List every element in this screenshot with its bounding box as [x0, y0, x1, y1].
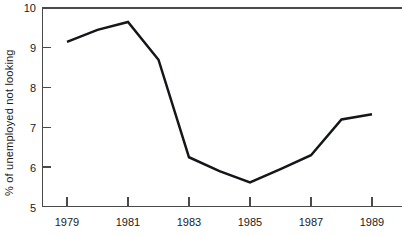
- x-tick-label-1979: 1979: [55, 216, 79, 228]
- y-tick-label-7: 7: [30, 122, 36, 134]
- y-tick-label-9: 9: [30, 42, 36, 54]
- x-tick-label-1989: 1989: [360, 216, 384, 228]
- data-line-unemployed-not-looking: [67, 22, 372, 182]
- x-axis-ticks: [67, 197, 372, 206]
- y-tick-label-5: 5: [30, 202, 36, 214]
- x-axis-tick-labels: 1979 1981 1983 1985 1987 1989: [55, 216, 384, 228]
- y-tick-label-6: 6: [30, 162, 36, 174]
- x-tick-label-1987: 1987: [299, 216, 323, 228]
- x-tick-label-1983: 1983: [177, 216, 201, 228]
- y-axis-tick-labels: 10 9 8 7 6 5: [24, 2, 36, 214]
- y-tick-label-8: 8: [30, 82, 36, 94]
- y-axis-title: % of unemployed not looking: [3, 49, 15, 196]
- chart-canvas: 10 9 8 7 6 5 % of unemployed not looking: [0, 0, 402, 236]
- x-tick-label-1985: 1985: [238, 216, 262, 228]
- line-chart: 10 9 8 7 6 5 % of unemployed not looking: [0, 0, 402, 236]
- x-tick-label-1981: 1981: [116, 216, 140, 228]
- y-axis-ticks: [43, 48, 51, 167]
- y-tick-label-10: 10: [24, 2, 36, 14]
